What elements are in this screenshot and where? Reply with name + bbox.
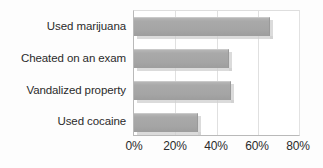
category-label-0: Used marijuana — [47, 20, 126, 33]
xtick-label-0: 0% — [126, 139, 143, 153]
bar-shadow-1 — [137, 68, 232, 71]
category-axis: Used marijuana Cheated on an exam Vandal… — [0, 0, 130, 136]
bar-3 — [134, 113, 198, 132]
bar-shadow-side-1 — [229, 52, 232, 71]
bar-shadow-side-0 — [270, 20, 273, 39]
xtick-label-4: 80% — [286, 139, 309, 153]
xtick-label-3: 60% — [245, 139, 268, 153]
category-label-2: Vandalized property — [26, 84, 126, 97]
category-label-3: Used cocaine — [58, 115, 126, 128]
xtick-label-2: 40% — [204, 139, 227, 153]
bar-shadow-side-3 — [198, 116, 201, 135]
bar-2 — [134, 81, 231, 100]
value-axis: 0% 20% 40% 60% 80% — [0, 139, 323, 159]
bar-shadow-0 — [137, 36, 273, 39]
bar-0 — [134, 17, 270, 36]
bar-chart: Used marijuana Cheated on an exam Vandal… — [0, 0, 323, 168]
category-label-1: Cheated on an exam — [21, 52, 126, 65]
bar-shadow-3 — [137, 132, 201, 135]
bar-shadow-2 — [137, 100, 234, 103]
plot-area — [133, 10, 300, 136]
bar-shadow-side-2 — [231, 84, 234, 103]
xtick-label-1: 20% — [163, 139, 186, 153]
bar-1 — [134, 49, 229, 68]
